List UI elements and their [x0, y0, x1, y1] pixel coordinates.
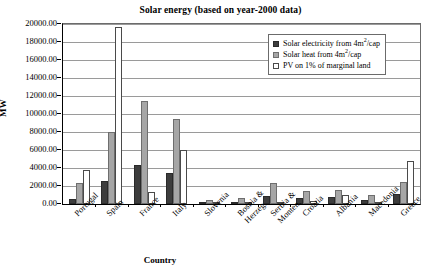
- y-axis-tick: [57, 77, 61, 78]
- y-axis-tick-label: 20000.00: [25, 18, 57, 28]
- y-axis-tick-labels: 20000.0018000.0016000.0014000.0012000.00…: [0, 23, 57, 205]
- bar: [231, 202, 238, 204]
- y-axis-tick-label: 18000.00: [25, 36, 57, 46]
- y-axis-tick: [57, 131, 61, 132]
- bar: [69, 199, 76, 204]
- y-axis-tick-label: 12000.00: [25, 90, 57, 100]
- bar-group: [160, 24, 192, 204]
- bar-group: [128, 24, 160, 204]
- y-axis-tick: [57, 59, 61, 60]
- bar: [115, 27, 122, 204]
- bar-group: [388, 24, 420, 204]
- bar: [361, 200, 368, 204]
- y-axis-tick: [57, 113, 61, 114]
- y-axis-tick-label: 2000.00: [29, 180, 57, 190]
- solar-energy-chart: Solar energy (based on year-2000 data) M…: [0, 0, 441, 275]
- y-axis-tick: [57, 167, 61, 168]
- y-axis-tick-label: 14000.00: [25, 72, 57, 82]
- legend-label: Solar heat from 4m2/cap: [283, 49, 361, 60]
- bar: [180, 150, 187, 204]
- bar: [199, 202, 206, 204]
- y-axis-tick: [57, 185, 61, 186]
- y-axis-tick: [57, 149, 61, 150]
- y-axis-tick-label: 8000.00: [29, 126, 57, 136]
- legend-item: PV on 1% of marginal land: [273, 60, 380, 71]
- y-axis-tick-label: 16000.00: [25, 54, 57, 64]
- bar: [108, 132, 115, 204]
- x-axis-title: Country: [0, 255, 320, 265]
- y-axis-tick-label: 4000.00: [29, 162, 57, 172]
- y-axis-tick: [57, 23, 61, 24]
- bar-group: [193, 24, 225, 204]
- y-axis-tick: [57, 203, 61, 204]
- legend-swatch: [273, 41, 279, 47]
- bar-group: [225, 24, 257, 204]
- bar: [166, 173, 173, 204]
- y-axis-tick-label: 6000.00: [29, 144, 57, 154]
- bar-group: [95, 24, 127, 204]
- bar: [400, 182, 407, 204]
- bar-group: [63, 24, 95, 204]
- bar: [328, 197, 335, 204]
- chart-legend: Solar electricity from 4m2/capSolar heat…: [268, 34, 386, 75]
- chart-title: Solar energy (based on year-2000 data): [0, 5, 441, 15]
- legend-swatch: [273, 52, 279, 58]
- bar: [101, 181, 108, 204]
- legend-swatch: [273, 63, 279, 69]
- legend-item: Solar heat from 4m2/cap: [273, 49, 380, 60]
- y-axis-tick-label: 10000.00: [25, 108, 57, 118]
- legend-item: Solar electricity from 4m2/cap: [273, 38, 380, 49]
- bar: [141, 101, 148, 205]
- y-axis-tick: [57, 41, 61, 42]
- bar: [134, 165, 141, 204]
- legend-label: PV on 1% of marginal land: [283, 60, 370, 71]
- y-axis-tick-label: 0.00: [42, 198, 57, 208]
- legend-label: Solar electricity from 4m2/cap: [283, 38, 380, 49]
- bar: [173, 119, 180, 204]
- y-axis-tick: [57, 95, 61, 96]
